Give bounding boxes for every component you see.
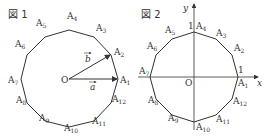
svg-text:A6: A6 (146, 41, 158, 52)
svg-text:A1: A1 (237, 78, 248, 89)
vector-b-label: b (84, 53, 91, 64)
svg-text:A11: A11 (215, 114, 230, 125)
svg-text:A3: A3 (95, 23, 107, 34)
svg-text:A7: A7 (7, 75, 19, 86)
vector-a-label: a (89, 82, 96, 92)
vertex-labels-1: A1 A2 A3 A4 A5 A6 A7 A8 A9 A10 A11 A12 (7, 11, 130, 134)
svg-text:A5: A5 (35, 18, 47, 29)
svg-text:a: a (90, 82, 95, 92)
y-axis-label: y (182, 3, 189, 13)
svg-text:A4: A4 (66, 11, 78, 22)
svg-text:A4: A4 (195, 21, 207, 32)
svg-text:A10: A10 (63, 123, 78, 134)
svg-text:A12: A12 (232, 96, 247, 107)
svg-text:A2: A2 (233, 43, 245, 54)
svg-text:A2: A2 (113, 47, 125, 58)
svg-text:A7: A7 (138, 66, 150, 77)
svg-text:A10: A10 (195, 122, 210, 133)
x-axis-label: x (257, 78, 262, 88)
diagram-canvas: 図 1 O a b A1 A2 A3 A4 A5 A6 A7 A8 A9 A10… (0, 0, 266, 136)
svg-text:A3: A3 (215, 28, 227, 39)
svg-text:A5: A5 (164, 25, 176, 36)
figure-1-title: 図 1 (8, 9, 28, 20)
origin-label-2: O (185, 78, 192, 88)
figure-2: 図 2 O x y 1 1 A1 A2 A3 A4 A5 A6 A7 A8 A9… (138, 3, 262, 133)
y-tick-1: 1 (188, 21, 194, 31)
figure-1: 図 1 O a b A1 A2 A3 A4 A5 A6 A7 A8 A9 A10… (7, 9, 130, 134)
svg-text:A9: A9 (167, 113, 179, 124)
svg-text:A1: A1 (119, 75, 130, 86)
svg-text:A9: A9 (38, 113, 50, 124)
svg-text:A11: A11 (91, 116, 106, 127)
x-tick-1: 1 (238, 65, 244, 75)
svg-text:A12: A12 (111, 94, 126, 105)
svg-text:A8: A8 (147, 95, 159, 106)
svg-text:b: b (85, 54, 91, 64)
figure-2-title: 図 2 (141, 9, 161, 20)
svg-text:A6: A6 (14, 39, 26, 50)
svg-text:A8: A8 (15, 95, 27, 106)
origin-label-1: O (61, 75, 68, 85)
